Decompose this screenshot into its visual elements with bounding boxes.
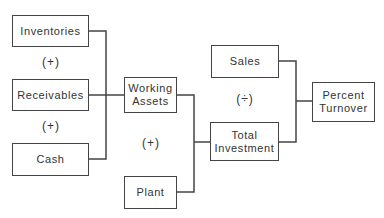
cash-box: Cash	[12, 143, 89, 176]
working-assets-label: Working Assets	[128, 82, 172, 108]
working-assets-box: Working Assets	[124, 77, 177, 113]
divide-operator: (÷)	[230, 92, 260, 106]
sales-label: Sales	[230, 55, 261, 68]
plus-operator: (+)	[36, 119, 66, 133]
sales-box: Sales	[211, 45, 279, 78]
plant-label: Plant	[136, 186, 164, 199]
plus-operator: (+)	[136, 136, 166, 150]
inventories-label: Inventories	[20, 25, 80, 38]
inventories-box: Inventories	[12, 15, 89, 47]
total-investment-label: Total Investment	[215, 129, 275, 155]
turnover-diagram: Inventories (+) Receivables (+) Cash Wor…	[0, 0, 384, 218]
percent-turnover-box: Percent Turnover	[312, 82, 375, 122]
percent-turnover-label: Percent Turnover	[319, 89, 367, 115]
total-investment-box: Total Investment	[210, 122, 279, 161]
receivables-box: Receivables	[12, 79, 89, 111]
cash-label: Cash	[36, 153, 64, 166]
plus-operator: (+)	[36, 55, 66, 69]
plant-box: Plant	[124, 176, 177, 209]
receivables-label: Receivables	[17, 89, 84, 102]
